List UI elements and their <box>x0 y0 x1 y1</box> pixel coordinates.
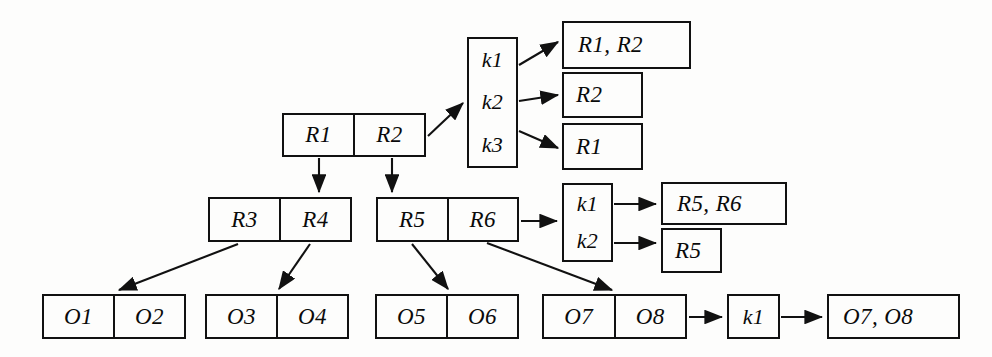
record-cell: R1 <box>564 125 641 168</box>
record-node-node-r3r4: R3R4 <box>208 197 352 242</box>
result-box-result-r1: R1 <box>562 123 643 170</box>
result-box-result-r1r2: R1, R2 <box>562 21 691 69</box>
record-cell: R1, R2 <box>564 23 689 67</box>
arrow-e-r5-to-o5o6 <box>412 244 448 289</box>
record-cell: O4 <box>276 296 347 337</box>
record-cell: R5 <box>378 199 447 240</box>
record-node-root-r1r2: R1R2 <box>282 113 426 157</box>
record-cell: R6 <box>447 199 518 240</box>
record-cell: R4 <box>279 199 350 240</box>
record-cell: R5 <box>663 230 720 271</box>
record-node-leaf-o3o4: O3O4 <box>205 294 349 339</box>
arrow-e-r3-to-o1o2 <box>119 244 238 290</box>
key-label: k3 <box>469 124 516 166</box>
record-node-leaf-o1o2: O1O2 <box>42 294 186 339</box>
record-cell: O8 <box>614 296 686 337</box>
record-cell: O7, O8 <box>829 296 958 337</box>
result-box-result-r2: R2 <box>562 72 643 118</box>
record-node-leaf-o5o6: O5O6 <box>375 294 519 339</box>
key-label: k1 <box>564 185 611 223</box>
result-box-result-r5: R5 <box>661 228 722 273</box>
record-cell: O3 <box>207 296 276 337</box>
arrow-e-r4-to-o3o4 <box>279 244 310 289</box>
record-cell: O5 <box>377 296 446 337</box>
record-cell: O7 <box>544 296 614 337</box>
diagram-canvas: R1R2k1k2k3R1, R2R2R1R3R4R5R6k1k2R5, R6R5… <box>0 0 992 357</box>
record-cell: O6 <box>446 296 517 337</box>
arrow-e-k2-to-r2 <box>519 95 558 101</box>
record-node-node-r5r6: R5R6 <box>376 197 519 242</box>
record-cell: R5, R6 <box>663 184 785 223</box>
key-label: k1 <box>729 296 778 337</box>
arrow-e-root-to-key1 <box>428 103 463 136</box>
record-cell: R3 <box>210 199 279 240</box>
result-box-result-r5r6: R5, R6 <box>661 182 787 225</box>
record-cell: R2 <box>564 74 641 116</box>
key-label: k1 <box>469 39 516 81</box>
arrow-e-k3-to-r1 <box>519 131 558 148</box>
record-cell: O1 <box>44 296 113 337</box>
key-list-keybox-2: k1k2 <box>562 183 613 262</box>
arrow-e-k1-to-r1r2 <box>519 42 558 65</box>
key-label: k2 <box>469 81 516 123</box>
record-cell: O2 <box>113 296 184 337</box>
record-cell: R1 <box>284 115 353 155</box>
key-label: k2 <box>564 223 611 261</box>
result-box-result-o7o8: O7, O8 <box>827 294 960 339</box>
record-node-leaf-o7o8: O7O8 <box>542 294 687 339</box>
key-list-keybox-3: k1 <box>727 294 780 339</box>
record-cell: R2 <box>353 115 424 155</box>
key-list-keybox-1: k1k2k3 <box>467 37 518 168</box>
